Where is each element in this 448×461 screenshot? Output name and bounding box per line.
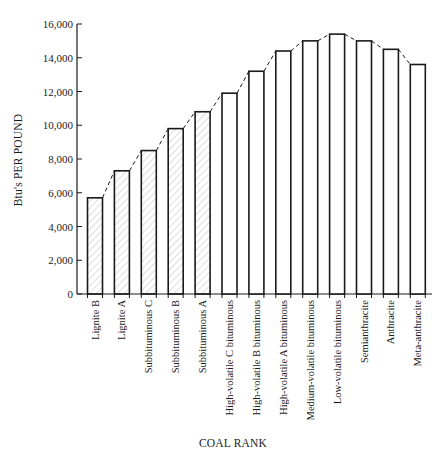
category-label: Subbituminous B bbox=[170, 300, 181, 373]
trend-segment bbox=[345, 34, 357, 41]
y-tick-label: 6,000 bbox=[48, 187, 73, 199]
category-label: Low-volatile bituminous bbox=[332, 300, 343, 404]
category-label: High-volatile C bituminous bbox=[224, 300, 235, 416]
category-label: Semianthracite bbox=[359, 300, 370, 363]
y-tick-label: 10,000 bbox=[43, 119, 74, 131]
x-axis-title: COAL RANK bbox=[199, 437, 268, 449]
trend-segment bbox=[372, 41, 384, 49]
bar bbox=[195, 112, 210, 294]
trend-segment bbox=[398, 49, 410, 64]
bar bbox=[114, 171, 129, 294]
category-label: Lignite A bbox=[116, 300, 127, 340]
bar-chart: 02,0004,0006,0008,00010,00012,00014,0001… bbox=[0, 0, 448, 461]
bar bbox=[383, 49, 398, 294]
category-label: High-volatile A bituminous bbox=[278, 300, 289, 415]
bar bbox=[303, 41, 318, 294]
bar bbox=[410, 65, 425, 295]
trend-segment bbox=[237, 71, 249, 93]
trend-segment bbox=[103, 171, 115, 198]
category-label: High-volatile B bituminous bbox=[251, 300, 262, 416]
category-label: Medium-volatile bituminous bbox=[305, 300, 316, 420]
bar bbox=[88, 198, 103, 294]
bar bbox=[249, 71, 264, 294]
category-label: Lignite B bbox=[90, 300, 101, 340]
category-label: Anthracite bbox=[385, 300, 396, 345]
category-label: Subbituminous A bbox=[197, 300, 208, 374]
bar bbox=[222, 93, 237, 294]
y-tick-label: 0 bbox=[68, 288, 74, 300]
trend-segment bbox=[210, 93, 222, 112]
y-tick-label: 12,000 bbox=[43, 86, 74, 98]
bars bbox=[88, 34, 426, 294]
bar bbox=[330, 34, 345, 294]
category-label: Subbituminous C bbox=[143, 300, 154, 373]
bar bbox=[357, 41, 372, 294]
y-tick-label: 8,000 bbox=[48, 153, 73, 165]
trend-segment bbox=[264, 51, 276, 71]
y-tick-label: 14,000 bbox=[43, 52, 74, 64]
y-axis-title: Btu's PER POUND bbox=[12, 114, 24, 207]
y-tick-label: 4,000 bbox=[48, 221, 73, 233]
x-axis-labels: Lignite BLignite ASubbituminous CSubbitu… bbox=[88, 294, 426, 420]
category-label: Meta-anthracite bbox=[412, 300, 423, 367]
bar bbox=[276, 51, 291, 294]
y-tick-label: 16,000 bbox=[43, 18, 74, 30]
trend-segment bbox=[291, 41, 303, 51]
trend-segment bbox=[318, 34, 330, 41]
bar bbox=[141, 151, 156, 294]
bar bbox=[168, 129, 183, 294]
y-tick-label: 2,000 bbox=[48, 254, 73, 266]
trend-segment bbox=[183, 112, 195, 129]
trend-segment bbox=[156, 129, 168, 151]
trend-segment bbox=[129, 151, 141, 171]
